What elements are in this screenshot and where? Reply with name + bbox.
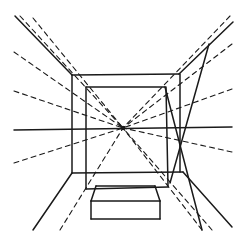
- perspective-diagram-svg: [0, 0, 246, 240]
- ortho-top-right-dashed-line: [123, 16, 230, 128]
- floor-left-edge-line: [33, 173, 72, 230]
- vanishing-point: [121, 126, 125, 130]
- ortho-top-left-2-dashed-line: [33, 18, 123, 128]
- floor-right-edge-line: [183, 172, 232, 227]
- inner-right-line: [166, 87, 168, 186]
- door-diagonal-2-line: [165, 87, 202, 230]
- box-right-top-line: [155, 186, 160, 201]
- ortho-left-upper-dashed-line: [14, 52, 123, 128]
- ortho-right-upper-dashed-line: [123, 44, 232, 128]
- ortho-right-mid-dashed-line: [123, 89, 232, 128]
- ceiling-right-edge-line: [179, 22, 233, 74]
- ortho-left-lower-dashed-line: [14, 128, 123, 163]
- ceiling-left-edge-line: [15, 16, 72, 75]
- outer-top-line: [72, 74, 179, 75]
- room-solid-lines: [14, 16, 233, 230]
- perspective-drawing: [0, 0, 246, 240]
- outer-bottom-line: [72, 172, 183, 173]
